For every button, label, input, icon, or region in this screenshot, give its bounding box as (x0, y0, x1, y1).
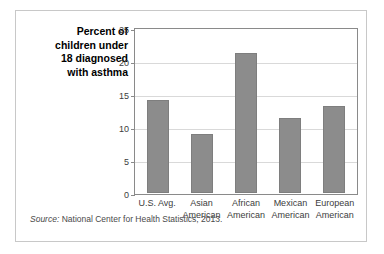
y-axis-tick-label: 15 (119, 91, 129, 101)
chart-title-line-1: Percent of (22, 25, 128, 39)
x-axis-label-line: American (313, 210, 357, 222)
chart-figure: Percent of children under 18 diagnosed w… (15, 10, 367, 242)
x-axis-label: MexicanAmerican (268, 198, 312, 221)
bar[interactable] (235, 53, 257, 193)
plot-wrap: 0510152025 (134, 28, 358, 195)
x-axis-label-line: Asian (179, 198, 223, 210)
x-axis-label-line: American (224, 210, 268, 222)
bar-series (136, 30, 356, 193)
x-axis-label-line: European (313, 198, 357, 210)
y-axis-tick-label: 20 (119, 58, 129, 68)
x-axis-label-line: African (224, 198, 268, 210)
bar-slot (268, 30, 312, 193)
y-axis-tick-label: 10 (119, 124, 129, 134)
y-axis-tick-label: 5 (124, 157, 129, 167)
bar[interactable] (279, 118, 301, 193)
y-axis-tick-label: 25 (119, 25, 129, 35)
x-axis-label-line: American (268, 210, 312, 222)
bar-slot (136, 30, 180, 193)
y-axis-tick (131, 162, 135, 163)
x-axis-label: AfricanAmerican (224, 198, 268, 221)
y-axis-tick-label: 0 (124, 190, 129, 200)
bar-slot (224, 30, 268, 193)
y-axis-tick (131, 96, 135, 97)
bar[interactable] (191, 134, 213, 193)
y-axis-tick (131, 129, 135, 130)
chart-title-line-3: 18 diagnosed (22, 52, 128, 66)
chart-title-line-2: children under (22, 39, 128, 53)
plot-area: 0510152025 (134, 28, 358, 195)
bar-slot (180, 30, 224, 193)
x-axis-label: EuropeanAmerican (313, 198, 357, 221)
chart-title: Percent of children under 18 diagnosed w… (22, 25, 128, 79)
bar[interactable] (147, 100, 169, 193)
y-axis-tick (131, 195, 135, 196)
bar[interactable] (323, 106, 345, 193)
x-axis-label: U.S. Avg. (135, 198, 179, 210)
bar-slot (312, 30, 356, 193)
source-note: Source: National Center for Health Stati… (30, 214, 222, 224)
y-axis-tick (131, 30, 135, 31)
chart-title-line-4: with asthma (22, 66, 128, 80)
source-label: Source: (30, 214, 59, 224)
x-axis-label-line: U.S. Avg. (135, 198, 179, 210)
source-text: National Center for Health Statistics, 2… (59, 214, 222, 224)
x-axis-label-line: Mexican (268, 198, 312, 210)
y-axis-tick (131, 63, 135, 64)
